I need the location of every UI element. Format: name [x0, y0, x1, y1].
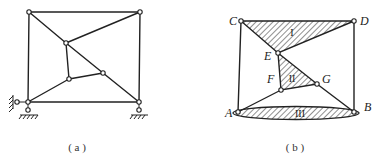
body-label-II: II	[289, 73, 296, 84]
body-label-I: I	[290, 27, 293, 38]
rigid-body-I	[241, 21, 354, 53]
horizontal-support-icon	[9, 95, 28, 112]
joint-c-icon	[239, 19, 243, 23]
joint-icon	[26, 100, 30, 104]
member-tl-e	[29, 12, 66, 43]
member-c-a	[238, 21, 241, 112]
label-a: A	[224, 106, 233, 120]
joint-icon	[138, 10, 142, 14]
joint-e-icon	[276, 51, 280, 55]
member-e-g	[66, 43, 103, 73]
joint-icon	[67, 77, 71, 81]
joint-g-icon	[315, 82, 319, 86]
member-e-f	[66, 43, 69, 79]
member-f-a	[28, 79, 69, 102]
label-d: D	[359, 14, 369, 28]
joint-a-icon	[236, 110, 240, 114]
label-e: E	[263, 49, 272, 63]
diagram-canvas: ( a ) C D E F G A B I II III ( b )	[0, 0, 379, 166]
rigid-body-II	[278, 53, 317, 90]
joint-b-icon	[352, 110, 356, 114]
member-f-g	[69, 73, 103, 79]
joint-icon	[137, 100, 141, 104]
joint-icon	[101, 71, 105, 75]
member-right	[139, 12, 140, 102]
label-b: B	[364, 100, 372, 114]
label-f: F	[266, 72, 275, 86]
label-g: G	[322, 72, 331, 86]
joint-d-icon	[352, 19, 356, 23]
member-g-b	[103, 73, 139, 102]
body-label-III: III	[295, 108, 305, 119]
joint-f-icon	[279, 88, 283, 92]
figure-b: C D E F G A B I II III ( b )	[224, 14, 372, 154]
label-c: C	[229, 14, 238, 28]
member-left	[28, 12, 29, 102]
joint-icon	[27, 10, 31, 14]
caption-a: ( a )	[68, 141, 86, 154]
figure-a: ( a )	[9, 10, 148, 154]
joint-icon	[64, 41, 68, 45]
caption-b: ( b )	[286, 141, 305, 154]
member-e-tr	[66, 12, 140, 43]
